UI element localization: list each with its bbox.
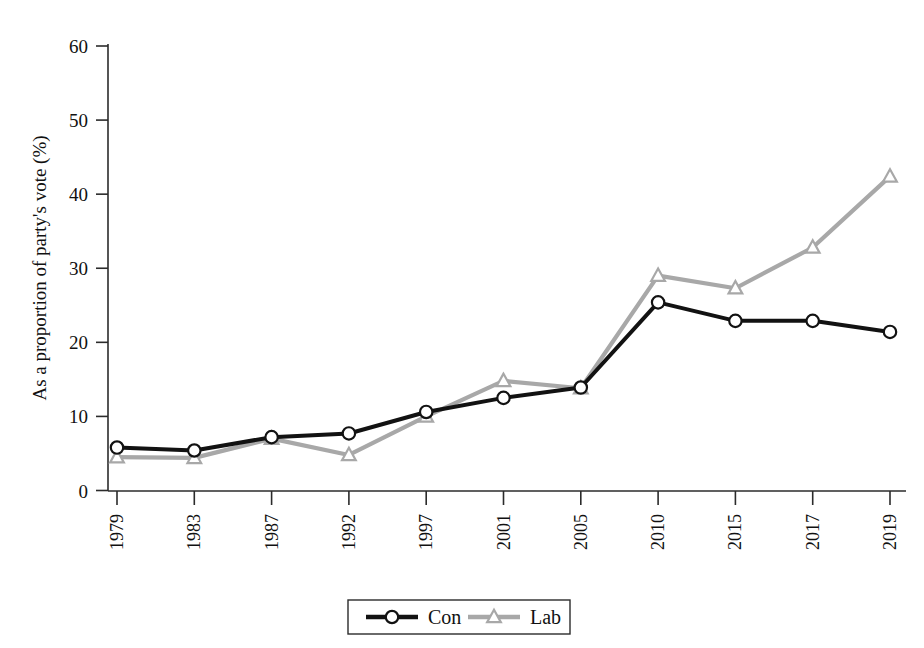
line-chart: As a proportion of party's vote (%) 0102… [0,0,924,648]
data-point-marker-circle [497,392,509,404]
data-point-marker-circle [111,441,123,453]
data-point-marker-circle [343,427,355,439]
series-lab [110,169,897,463]
x-tick-label: 2005 [571,514,591,550]
chart-legend: ConLab [348,600,570,634]
y-axis-ticks: 0102030405060 [69,36,108,502]
data-point-marker-circle [884,326,896,338]
x-tick-label: 2019 [880,514,900,550]
x-tick-label: 2010 [648,514,668,550]
x-tick-label: 1997 [416,514,436,550]
chart-container: As a proportion of party's vote (%) 0102… [0,0,924,648]
data-point-marker-circle [575,381,587,393]
data-point-marker-circle [386,611,398,623]
data-point-marker-circle [807,315,819,327]
series-line-lab [117,176,890,458]
x-tick-label: 1983 [184,514,204,550]
y-tick-label: 30 [69,258,88,279]
y-axis-title: As a proportion of party's vote (%) [29,135,51,400]
x-tick-label: 1979 [107,514,127,550]
y-tick-label: 20 [69,332,88,353]
y-tick-label: 60 [69,36,88,57]
y-tick-label: 40 [69,184,88,205]
data-point-marker-circle [729,315,741,327]
y-axis-title-group: As a proportion of party's vote (%) [29,135,51,400]
data-point-marker-circle [265,431,277,443]
y-tick-label: 50 [69,110,88,131]
legend-label-lab: Lab [530,606,561,628]
x-tick-label: 1987 [262,514,282,550]
data-point-marker-circle [652,296,664,308]
data-point-marker-circle [420,406,432,418]
x-tick-label: 2015 [725,514,745,550]
y-tick-label: 10 [69,406,88,427]
y-tick-label: 0 [79,481,89,502]
data-point-marker-circle [188,444,200,456]
legend-label-con: Con [428,606,461,628]
data-point-marker-triangle [883,169,897,181]
x-axis-ticks: 1979198319871992199720012005201020152017… [107,491,900,550]
series-layer [110,169,897,463]
x-tick-label: 2017 [803,514,823,550]
x-tick-label: 1992 [339,514,359,550]
x-tick-label: 2001 [494,514,514,550]
